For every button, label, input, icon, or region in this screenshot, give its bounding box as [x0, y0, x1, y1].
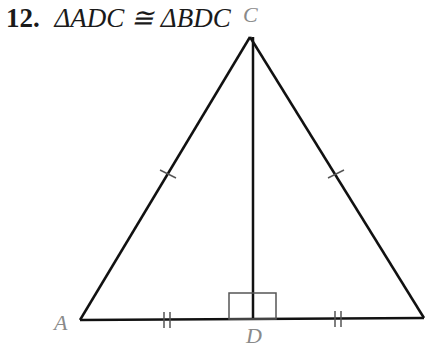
label-A: A	[52, 310, 68, 335]
triangle-diagram: A C D	[0, 0, 430, 348]
label-C: C	[243, 2, 258, 27]
label-D: D	[245, 323, 262, 348]
side-AC	[80, 37, 250, 320]
side-BC	[250, 37, 424, 318]
